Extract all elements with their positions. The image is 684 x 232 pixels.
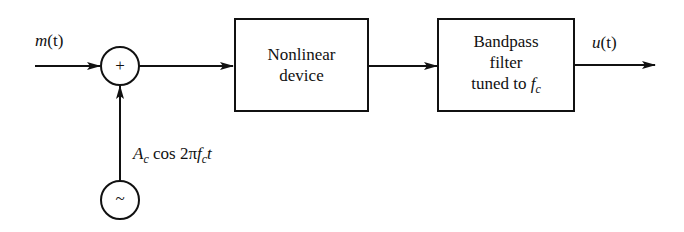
- carrier-freq-sub: c: [202, 152, 207, 166]
- input-label: m(t): [35, 32, 63, 49]
- nonlinear-device-label: Nonlinear device: [235, 44, 368, 86]
- bandpass-line1: Bandpass: [438, 31, 574, 52]
- bandpass-filter-label: Bandpass filter tuned to fc: [438, 31, 574, 96]
- plus-icon: +: [110, 57, 130, 74]
- bandpass-line3: tuned to fc: [438, 73, 574, 96]
- output-label: u(t): [592, 34, 617, 51]
- carrier-label: Ac cos 2πfct: [133, 145, 212, 162]
- bandpass-tuned-text: tuned to: [471, 74, 531, 93]
- input-signal-name: m: [35, 31, 47, 50]
- diagram-canvas: [0, 0, 684, 232]
- carrier-func: cos 2π: [149, 144, 197, 163]
- nonlinear-line2: device: [235, 65, 368, 86]
- input-signal-arg: (t): [47, 31, 63, 50]
- carrier-var: t: [207, 144, 212, 163]
- carrier-amp-sub: c: [143, 152, 148, 166]
- output-signal-arg: (t): [601, 33, 617, 52]
- bandpass-freq-sub: c: [535, 82, 540, 96]
- bandpass-line2: filter: [438, 52, 574, 73]
- sine-wave-icon: ~: [110, 190, 130, 207]
- output-signal-name: u: [592, 33, 601, 52]
- carrier-amp: A: [133, 144, 143, 163]
- nonlinear-line1: Nonlinear: [235, 44, 368, 65]
- carrier-freq: f: [197, 144, 202, 163]
